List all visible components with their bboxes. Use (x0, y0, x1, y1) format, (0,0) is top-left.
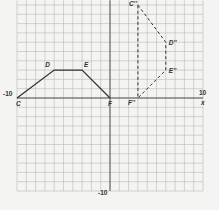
coordinate-grid: CDEFC''D''E''F''-1010x-10 (0, 0, 219, 210)
vertex-label: C'' (129, 0, 137, 7)
vertex-label: E (84, 61, 89, 68)
x-max-label: 10 (199, 89, 207, 96)
x-min-label: -10 (3, 90, 13, 97)
vertex-label: F (108, 100, 113, 107)
vertex-label: D'' (169, 39, 177, 46)
vertex-label: E'' (169, 67, 177, 74)
vertex-label: D (45, 61, 50, 68)
vertex-label: F'' (128, 99, 136, 106)
y-min-label: -10 (98, 189, 108, 196)
vertex-label: C (16, 100, 21, 107)
x-axis-label: x (200, 99, 205, 106)
